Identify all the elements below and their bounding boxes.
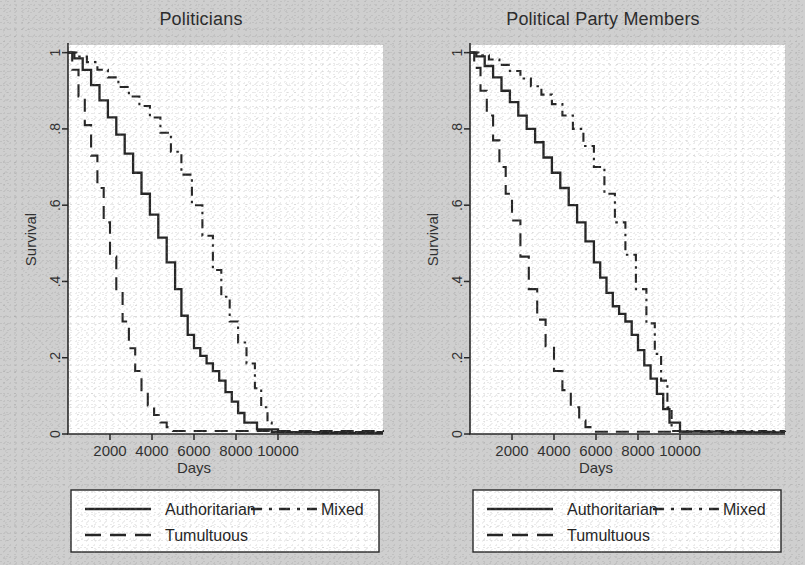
plot-canvas: 0.2.4.6.81Survival200040006000800010000D… bbox=[0, 0, 402, 565]
survival-figure: Politicians 0.2.4.6.81Survival2000400060… bbox=[0, 0, 805, 565]
x-tick-label: 8000 bbox=[219, 442, 252, 459]
y-tick-label: .8 bbox=[449, 123, 465, 135]
x-tick-label: 6000 bbox=[177, 442, 210, 459]
x-tick-label: 8000 bbox=[621, 442, 654, 459]
y-tick-label: .6 bbox=[449, 199, 465, 211]
y-tick-label: .6 bbox=[47, 199, 63, 211]
x-tick-label: 2000 bbox=[93, 442, 126, 459]
y-axis-title: Survival bbox=[22, 213, 39, 266]
legend-label-mixed: Mixed bbox=[723, 501, 766, 518]
x-tick-label: 2000 bbox=[495, 442, 528, 459]
y-tick-label: 1 bbox=[449, 49, 465, 57]
panel-political-party-members: Political Party Members 0.2.4.6.81Surviv… bbox=[402, 0, 804, 565]
y-tick-label: .2 bbox=[47, 352, 63, 364]
x-axis-title: Days bbox=[579, 459, 613, 476]
y-tick-label: .8 bbox=[47, 123, 63, 135]
x-tick-label: 4000 bbox=[135, 442, 168, 459]
x-tick-label: 6000 bbox=[579, 442, 612, 459]
x-tick-label: 4000 bbox=[537, 442, 570, 459]
legend-label-authoritarian: Authoritarian bbox=[567, 501, 658, 518]
y-tick-label: 0 bbox=[449, 430, 465, 438]
plot-group-1: 0.2.4.6.81Survival200040006000800010000D… bbox=[424, 43, 786, 552]
y-tick-label: .2 bbox=[449, 352, 465, 364]
plot-canvas: 0.2.4.6.81Survival200040006000800010000D… bbox=[402, 0, 805, 565]
x-tick-label: 10000 bbox=[257, 442, 299, 459]
plot-area bbox=[68, 45, 383, 434]
y-axis-title: Survival bbox=[424, 213, 441, 266]
y-tick-label: .4 bbox=[449, 275, 465, 287]
x-axis-title: Days bbox=[177, 459, 211, 476]
x-tick-label: 10000 bbox=[659, 442, 701, 459]
y-tick-label: 0 bbox=[47, 430, 63, 438]
panel-politicians: Politicians 0.2.4.6.81Survival2000400060… bbox=[0, 0, 402, 565]
y-tick-label: .4 bbox=[47, 275, 63, 287]
legend-label-mixed: Mixed bbox=[321, 501, 364, 518]
y-tick-label: 1 bbox=[47, 49, 63, 57]
plot-group-0: 0.2.4.6.81Survival200040006000800010000D… bbox=[22, 43, 384, 552]
legend-label-tumultuous: Tumultuous bbox=[567, 527, 650, 544]
legend-label-authoritarian: Authoritarian bbox=[165, 501, 256, 518]
legend-label-tumultuous: Tumultuous bbox=[165, 527, 248, 544]
